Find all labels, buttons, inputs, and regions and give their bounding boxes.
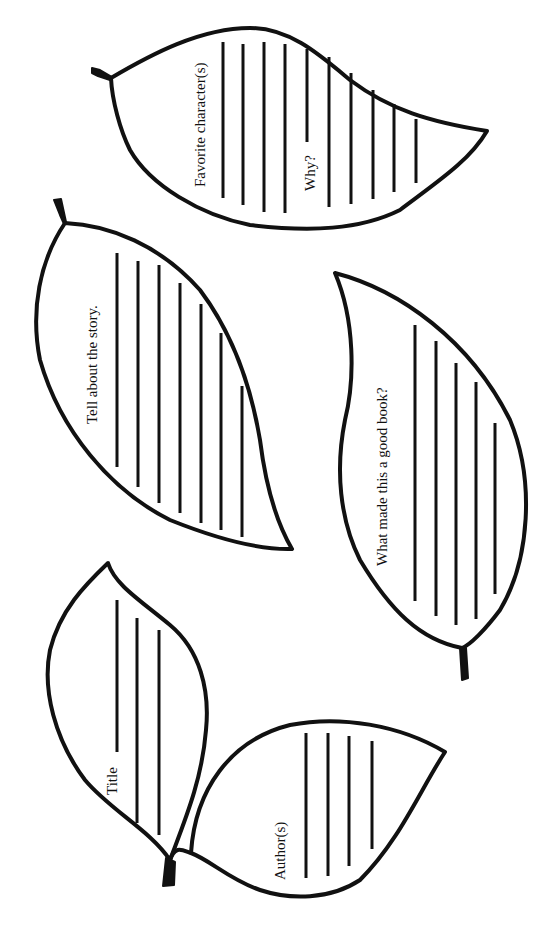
leaf-good-book: What made this a good book? xyxy=(335,273,526,680)
prompt-favorite-character: Favorite character(s) xyxy=(192,62,209,187)
leaf-outline xyxy=(335,273,526,648)
leaf-stem-icon xyxy=(54,199,66,224)
leaf-outline xyxy=(191,721,445,896)
prompt-authors: Author(s) xyxy=(272,822,289,880)
leaf-tell-story: Tell about the story. xyxy=(36,199,292,549)
leaf-outline xyxy=(48,563,207,860)
prompt-why: Why? xyxy=(302,155,318,191)
prompt-title: Title xyxy=(104,767,120,795)
leaf-stem-icon xyxy=(163,858,175,886)
leaf-title: Title xyxy=(48,563,207,860)
leaf-stem-branch xyxy=(170,850,191,860)
leaf-stem-icon xyxy=(92,68,112,80)
leaf-outline xyxy=(36,223,292,549)
prompt-tell-story: Tell about the story. xyxy=(84,305,100,424)
leaf-outline xyxy=(111,28,487,229)
prompt-good-book: What made this a good book? xyxy=(374,387,390,566)
leaf-stem-icon xyxy=(460,648,468,680)
book-report-leaf-worksheet: Favorite character(s) Why? Tell about th… xyxy=(0,0,542,931)
leaf-favorite-character: Favorite character(s) Why? xyxy=(92,28,487,229)
